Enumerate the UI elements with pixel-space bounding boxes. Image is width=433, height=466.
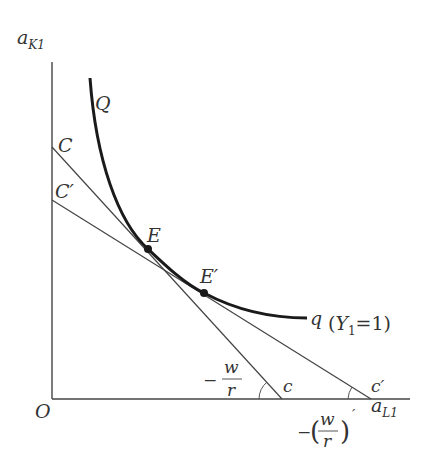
curve-annotation: (Y1=1)	[328, 312, 391, 338]
slope-label-c-prime: − ( w r ) ′	[297, 406, 356, 451]
svg-text:w: w	[320, 409, 335, 429]
svg-text:w: w	[224, 357, 239, 377]
angle-arc-c	[259, 382, 267, 399]
point-E-prime	[200, 289, 208, 297]
line-C-prime-label: C′	[55, 180, 75, 202]
x-axis-label: aL1	[371, 394, 398, 420]
curve-end-label: q	[310, 307, 322, 329]
point-E	[144, 245, 152, 253]
point-c-prime-label: c′	[371, 376, 385, 396]
svg-text:r: r	[227, 380, 236, 400]
origin-label: O	[35, 400, 51, 422]
point-E-prime-label: E′	[199, 265, 219, 287]
cost-line-c	[52, 147, 282, 399]
isoquant-diagram: aK1 aL1 O Q q (Y1=1) C C′ c c′ E E′ − w …	[0, 0, 433, 466]
angle-arc-c-prime	[348, 387, 352, 399]
line-C-label: C	[58, 134, 73, 156]
svg-text:r: r	[323, 431, 332, 451]
slope-label-c: − w r	[203, 357, 242, 400]
curve-start-label: Q	[95, 92, 111, 114]
svg-text:): )	[340, 416, 350, 446]
svg-text:′: ′	[352, 406, 356, 424]
point-c-label: c	[283, 376, 293, 396]
svg-text:−: −	[203, 370, 217, 390]
point-E-label: E	[146, 224, 161, 246]
y-axis-label: aK1	[17, 26, 45, 52]
isoquant-curve	[90, 78, 307, 318]
